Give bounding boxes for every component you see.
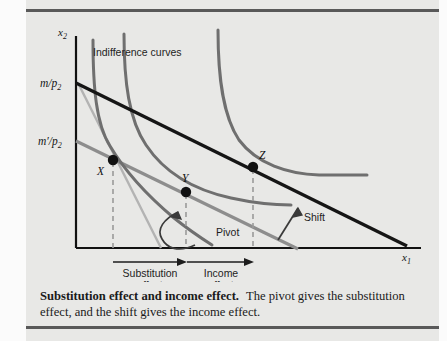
y-intercept-original-label: m/p2	[40, 77, 61, 92]
substitution-effect-line2: effect	[137, 279, 163, 282]
indifference-curve-3	[218, 30, 367, 175]
steep-pivot-guide-line	[78, 83, 161, 248]
pivot-annotation: Pivot	[160, 212, 239, 249]
indifference-curves-label: Indifference curves	[93, 46, 182, 58]
figure-caption: Substitution effect and income effect.Th…	[40, 288, 430, 320]
income-effect-line1: Income	[204, 267, 239, 279]
x-axis-label: x1	[401, 251, 411, 266]
substitution-effect-label: Substitution effect	[123, 267, 178, 282]
data-point-y[interactable]	[181, 187, 191, 197]
y-intercept-pivoted-label: m′/p2	[38, 135, 62, 150]
income-effect-arrow-head-icon	[244, 258, 254, 266]
chart-axes	[76, 36, 421, 248]
y-axis-label: x2	[57, 26, 67, 41]
page-margin-right	[439, 0, 447, 341]
data-point-x-label: X	[96, 165, 105, 177]
income-effect-label: Income effect	[204, 267, 239, 282]
income-effect-line2: effect	[208, 279, 234, 282]
data-point-z[interactable]	[248, 162, 258, 172]
shift-label: Shift	[304, 211, 325, 223]
shift-annotation: Shift	[278, 208, 325, 240]
data-point-z-label: Z	[259, 149, 266, 161]
pivot-arrow-head-icon	[172, 212, 181, 219]
pivot-label: Pivot	[216, 226, 239, 238]
figure-rule-bottom	[26, 326, 439, 329]
caption-title: Substitution effect and income effect.	[40, 289, 239, 303]
substitution-effect-line1: Substitution	[123, 267, 178, 279]
effect-range-arrows	[113, 258, 254, 266]
chart-plot-area: x2 x1 m/p2 m′/p2	[26, 12, 439, 282]
figure-container: x2 x1 m/p2 m′/p2	[0, 0, 447, 341]
data-point-x[interactable]	[108, 155, 118, 165]
chart-svg: x2 x1 m/p2 m′/p2	[26, 12, 439, 282]
substitution-effect-arrow-head-icon	[177, 258, 187, 266]
page-margin-left	[0, 0, 26, 341]
